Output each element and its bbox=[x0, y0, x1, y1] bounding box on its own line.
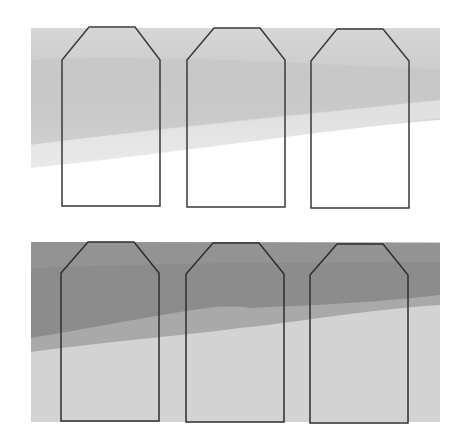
bottom-panel bbox=[31, 242, 440, 423]
diagram-svg bbox=[0, 0, 459, 446]
top-panel bbox=[31, 27, 440, 208]
diagram-canvas bbox=[0, 0, 459, 446]
